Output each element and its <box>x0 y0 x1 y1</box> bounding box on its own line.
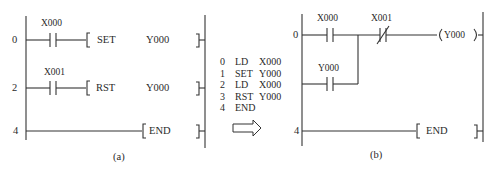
a-set-right-bracket <box>196 34 199 47</box>
step-number: 3 <box>220 91 235 103</box>
instruction-row: 2 LD X000 <box>220 79 281 91</box>
a-contact-label-x001: X001 <box>44 66 65 78</box>
opcode: SET <box>235 68 259 80</box>
b-step-0: 0 <box>293 29 298 41</box>
opcode: END <box>235 102 259 114</box>
operand: Y000 <box>259 68 281 80</box>
step-number: 1 <box>220 68 235 80</box>
b-step-4: 4 <box>294 125 299 137</box>
instruction-row: 1 SET Y000 <box>220 68 281 80</box>
b-contact-label-y000: Y000 <box>318 62 339 74</box>
right-arrow-icon <box>233 120 261 136</box>
a-contact-label-x000: X000 <box>41 17 62 29</box>
opcode: LD <box>235 56 259 68</box>
b-coil-left-arc <box>440 29 443 41</box>
a-rst-right-bracket <box>196 82 199 95</box>
b-contact-label-x001: X001 <box>371 12 392 24</box>
b-coil-label-y000: Y000 <box>444 29 465 41</box>
a-rst-instruction: RST <box>96 82 115 94</box>
a-step-2: 2 <box>12 82 17 94</box>
a-step-4: 4 <box>13 125 18 137</box>
opcode: RST <box>235 91 259 103</box>
a-rst-operand: Y000 <box>146 82 169 94</box>
a-end-right-bracket <box>196 125 199 138</box>
a-step-0: 0 <box>12 34 17 46</box>
b-coil-right-arc <box>474 29 477 41</box>
a-end-instruction: END <box>149 125 171 137</box>
operand: Y000 <box>259 91 281 103</box>
a-set-operand: Y000 <box>146 34 169 46</box>
instruction-row: 0 LD X000 <box>220 56 281 68</box>
a-rst-left-bracket <box>87 81 90 95</box>
step-number: 0 <box>220 56 235 68</box>
a-end-left-bracket <box>143 124 146 138</box>
b-contact-label-x000: X000 <box>317 12 338 24</box>
operand: X000 <box>259 79 281 91</box>
a-set-instruction: SET <box>97 34 116 46</box>
instruction-row: 3 RST Y000 <box>220 91 281 103</box>
instruction-row: 4 END <box>220 102 281 114</box>
opcode: LD <box>235 79 259 91</box>
instruction-list: 0 LD X000 1 SET Y000 2 LD X000 3 RST Y00… <box>220 56 281 114</box>
caption-a: (a) <box>113 151 125 163</box>
caption-b: (b) <box>370 149 382 161</box>
a-set-left-bracket <box>87 33 90 47</box>
step-number: 4 <box>220 102 235 114</box>
b-end-instruction: END <box>426 125 448 137</box>
operand: X000 <box>259 56 281 68</box>
step-number: 2 <box>220 79 235 91</box>
